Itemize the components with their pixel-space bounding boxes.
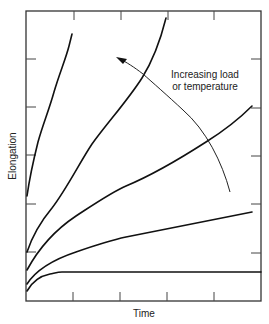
annotation-line-2: or temperature [172,81,238,92]
curve-4 [27,212,252,284]
y-axis-label: Elongation [7,132,18,179]
arrowhead-icon [116,57,127,64]
x-axis-label: Time [133,308,155,319]
x-axis-ticks [73,292,214,301]
top-axis-ticks [74,11,214,20]
creep-curves [27,18,261,291]
curve-1 [27,34,72,196]
curve-2 [27,18,166,252]
annotation-line-1: Increasing load [171,69,239,80]
curve-5 [27,272,261,291]
curve-3 [27,106,252,270]
creep-curves-chart: Increasing load or temperature Time Elon… [0,0,269,324]
right-axis-ticks [251,59,261,253]
